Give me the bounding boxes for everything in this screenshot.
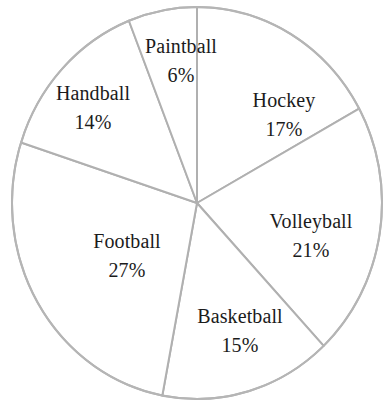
pie-chart-canvas	[0, 0, 387, 404]
pie-slice-group	[12, 7, 382, 399]
pie-chart: Hockey17%Volleyball21%Basketball15%Footb…	[0, 0, 387, 404]
